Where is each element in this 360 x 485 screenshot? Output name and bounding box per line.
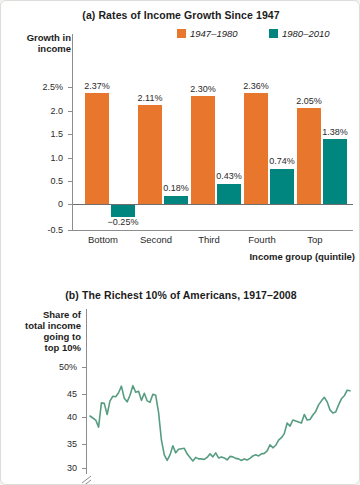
chart-a-category-label-top: Top [287,234,343,245]
bar-value-period1-bottom: 2.37% [73,81,121,91]
chart-a-ytick-label-0: 2.5% [15,82,63,92]
bar-period2-top[interactable] [323,139,347,204]
chart-b-ytick-label-3: 35 [31,439,77,449]
chart-b-y-axis-title-line4: top 10% [45,342,81,353]
chart-a-tick-2-0 [68,111,73,112]
legend-label-period1: 1947–1980 [190,28,238,39]
chart-b-ytick-label-2: 40 [31,412,77,422]
chart-b-y-axis-title-line3: going to [44,331,81,342]
bar-period2-third[interactable] [217,184,241,204]
chart-a-tick-1-5 [68,134,73,135]
bar-period2-bottom[interactable] [111,205,135,217]
chart-a-category-label-third: Third [181,234,237,245]
chart-b-ytick-label-4: 30 [31,463,77,473]
chart-b-title: (b) The Richest 10% of Americans, 1917–2… [1,289,360,301]
chart-a-title: (a) Rates of Income Growth Since 1947 [1,9,360,21]
figure-page: (a) Rates of Income Growth Since 1947 Gr… [0,0,360,485]
chart-a-x-axis-title: Income group (quintile) [181,251,355,262]
chart-a-x-axis-line [72,230,353,231]
chart-a-ytick-label-4: 0.5 [15,176,63,186]
chart-b-y-axis-title-line1: Share of [43,309,81,320]
chart-a-income-growth: (a) Rates of Income Growth Since 1947 Gr… [1,1,360,279]
bar-period1-top[interactable] [297,108,321,204]
chart-a-ytick-label-5: 0 [15,199,63,209]
chart-a-y-axis-title-line2: income [38,43,71,54]
chart-a-category-label-fourth: Fourth [234,234,290,245]
bar-value-period1-top: 2.05% [285,96,333,106]
chart-a-ytick-label-2: 1.5 [15,129,63,139]
legend-swatch-icon-period2 [269,29,278,38]
chart-a-ytick-label-6: -0.5 [15,225,63,235]
bar-value-period1-fourth: 2.36% [232,81,280,91]
chart-b-y-axis-title: Share of total income going to top 10% [5,309,81,353]
chart-a-category-label-second: Second [128,234,184,245]
chart-b-ytick-label-0: 50% [31,362,77,372]
bar-value-period2-top: 1.38% [311,127,359,137]
bar-period1-third[interactable] [191,96,215,204]
chart-a-y-axis-line [72,34,73,230]
legend-swatch-icon-period1 [177,29,186,38]
bar-period2-fourth[interactable] [270,169,294,204]
chart-a-tick-1-0 [68,158,73,159]
bar-value-period1-third: 2.30% [179,84,227,94]
chart-a-ytick-label-3: 1.0 [15,153,63,163]
chart-b-line-series [87,309,353,479]
bar-value-period1-second: 2.11% [126,93,174,103]
legend-label-period2: 1980–2010 [282,28,330,39]
chart-b-top10-share: (b) The Richest 10% of Americans, 1917–2… [1,279,360,485]
chart-b-ytick-label-1: 45 [31,389,77,399]
bar-period2-second[interactable] [164,196,188,204]
chart-b-y-axis-title-line2: total income [25,320,81,331]
chart-a-tick-neg-0-5 [68,230,73,231]
bar-value-period2-bottom: −0.25% [99,217,147,227]
chart-a-category-label-bottom: Bottom [75,234,131,245]
chart-a-ytick-label-1: 2.0 [15,106,63,116]
chart-a-tick-0 [68,204,73,205]
bar-period1-bottom[interactable] [85,93,109,204]
chart-a-y-axis-title: Growth in income [9,32,71,54]
chart-a-tick-0-5 [68,181,73,182]
bar-period1-fourth[interactable] [244,93,268,204]
chart-a-y-axis-title-line1: Growth in [27,32,71,43]
